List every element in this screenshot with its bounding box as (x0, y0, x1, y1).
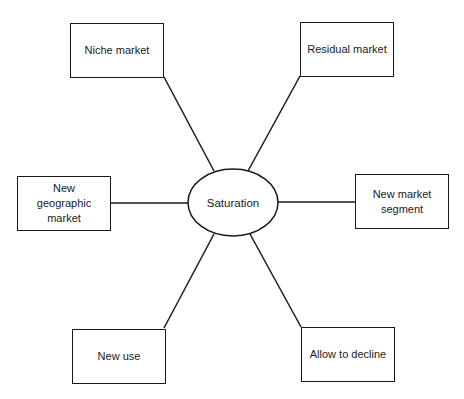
node-label: New geographic market (30, 181, 98, 226)
center-node-label: Saturation (188, 169, 278, 236)
node-allow-to-decline: Allow to decline (301, 327, 395, 382)
edge-niche (164, 77, 214, 171)
edge-use (164, 234, 214, 328)
node-new-geographic-market: New geographic market (17, 176, 111, 231)
node-label: New market segment (370, 187, 434, 217)
node-label: Residual market (307, 42, 386, 57)
node-label: Allow to decline (310, 347, 386, 362)
edge-residual (248, 76, 300, 171)
node-residual-market: Residual market (300, 22, 394, 77)
node-label: New use (98, 349, 141, 364)
node-new-use: New use (72, 329, 166, 384)
edge-decline (250, 234, 301, 327)
node-new-market-segment: New market segment (355, 174, 449, 229)
node-label: Niche market (85, 43, 150, 58)
node-niche-market: Niche market (70, 23, 164, 78)
